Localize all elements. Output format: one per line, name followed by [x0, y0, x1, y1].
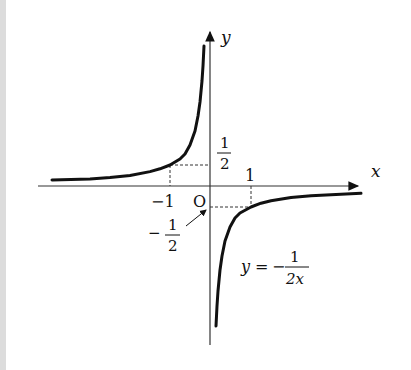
tick-label-y-neg-half: − 1 2 — [148, 216, 180, 255]
equation-label: y = − 1 2x — [240, 248, 309, 288]
svg-text:2: 2 — [220, 155, 230, 173]
pointer-arrow — [186, 210, 206, 226]
curve-branch-right — [216, 193, 361, 326]
curve-branch-left — [52, 46, 204, 180]
tick-label-y-half: 1 2 — [217, 134, 231, 173]
svg-text:=: = — [255, 257, 268, 276]
x-axis-label: x — [371, 161, 381, 181]
svg-text:−: − — [272, 257, 285, 276]
tick-label-x-1: 1 — [245, 166, 255, 185]
svg-text:−: − — [148, 224, 161, 242]
y-axis-label: y — [220, 27, 231, 47]
svg-text:2x: 2x — [285, 270, 305, 288]
svg-text:1: 1 — [220, 134, 230, 152]
svg-text:1: 1 — [168, 216, 178, 234]
tick-label-x-neg1: −1 — [151, 192, 175, 211]
svg-text:y: y — [240, 257, 251, 276]
svg-text:1: 1 — [290, 248, 300, 266]
svg-text:2: 2 — [168, 237, 178, 255]
hyperbola-graph: y x −1 1 O 1 2 − 1 2 y = − 1 2x — [0, 0, 411, 370]
origin-label: O — [193, 192, 206, 211]
